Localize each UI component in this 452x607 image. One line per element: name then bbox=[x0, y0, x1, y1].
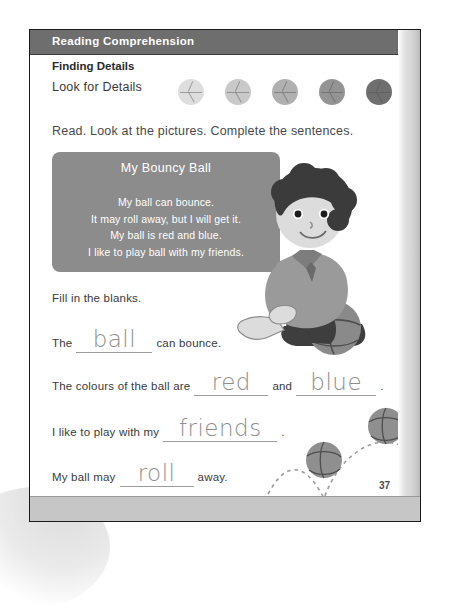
q4-after: away. bbox=[198, 471, 228, 483]
worksheet-page: Reading Comprehension Finding Details Lo… bbox=[29, 29, 421, 522]
ball-seam bbox=[329, 81, 335, 92]
q2-answer-blank-1[interactable]: red bbox=[194, 370, 268, 396]
page-gutter-strip bbox=[398, 30, 420, 521]
ball-seam bbox=[321, 92, 343, 93]
ball-seam bbox=[274, 92, 296, 93]
question-row-4: My ball may roll away. bbox=[52, 461, 228, 487]
q3-after: . bbox=[281, 426, 284, 438]
boy-illustration-icon bbox=[226, 158, 396, 356]
difficulty-ball-2 bbox=[225, 79, 251, 105]
bounce-ball-1 bbox=[306, 442, 342, 478]
q4-answer-blank[interactable]: roll bbox=[120, 461, 194, 487]
ball-seam bbox=[227, 92, 249, 93]
q1-answer-blank[interactable]: ball bbox=[76, 327, 152, 353]
ball-seam bbox=[188, 92, 195, 102]
ball-seam bbox=[376, 81, 382, 92]
ball-seam bbox=[188, 81, 194, 92]
q2-middle: and bbox=[272, 380, 292, 392]
q2-before: The colours of the ball are bbox=[52, 380, 190, 392]
q1-after: can bounce. bbox=[156, 337, 221, 349]
q2-answer-blank-2[interactable]: blue bbox=[296, 370, 376, 396]
section-title: Finding Details bbox=[52, 60, 134, 72]
q2-after: . bbox=[380, 380, 383, 392]
question-row-3: I like to play with my friends . bbox=[52, 416, 285, 442]
instruction-text: Read. Look at the pictures. Complete the… bbox=[52, 124, 353, 138]
difficulty-meter bbox=[178, 79, 402, 107]
ball-seam bbox=[329, 92, 336, 102]
q1-before: The bbox=[52, 337, 72, 349]
difficulty-ball-4 bbox=[319, 79, 345, 105]
q4-before: My ball may bbox=[52, 471, 116, 483]
q3-before: I like to play with my bbox=[52, 426, 159, 438]
header-bar: Reading Comprehension bbox=[30, 30, 421, 55]
q3-answer-blank[interactable]: friends bbox=[163, 416, 277, 442]
difficulty-ball-3 bbox=[272, 79, 298, 105]
page-bottom-band bbox=[30, 496, 420, 521]
page-number: 37 bbox=[379, 480, 390, 491]
question-row-1: The ball can bounce. bbox=[52, 327, 221, 353]
ball-seam bbox=[180, 92, 202, 93]
skill-label: Look for Details bbox=[52, 80, 142, 94]
question-row-2: The colours of the ball are red and blue… bbox=[52, 370, 384, 396]
difficulty-ball-1 bbox=[178, 79, 204, 105]
ball-seam bbox=[282, 92, 289, 102]
page-content-area: Reading Comprehension Finding Details Lo… bbox=[30, 30, 398, 497]
page-title: Reading Comprehension bbox=[52, 35, 194, 47]
ball-seam bbox=[235, 81, 241, 92]
ball-seam bbox=[368, 92, 390, 93]
ball-seam bbox=[282, 81, 288, 92]
ball-seam bbox=[376, 92, 383, 102]
difficulty-ball-5 bbox=[366, 79, 392, 105]
ball-seam bbox=[235, 92, 242, 102]
fill-in-instruction: Fill in the blanks. bbox=[52, 292, 141, 304]
